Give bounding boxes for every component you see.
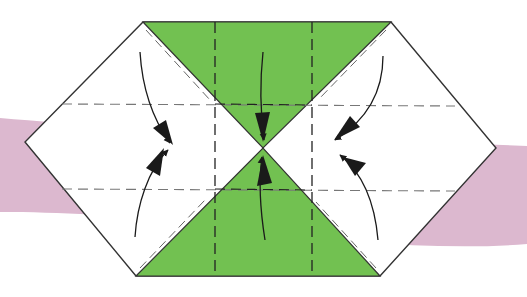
origami-fold-diagram — [0, 0, 527, 297]
